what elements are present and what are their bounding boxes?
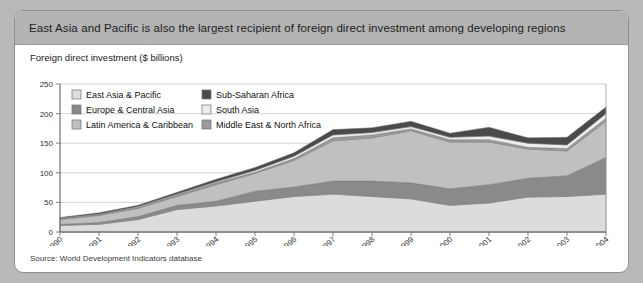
legend-swatch (202, 120, 211, 129)
x-tick-label: 2003 (552, 234, 572, 246)
legend-swatch (202, 90, 211, 99)
x-tick-label: 1996 (279, 234, 299, 246)
legend-swatch (72, 90, 81, 99)
legend-item: Middle East & North Africa (202, 120, 321, 130)
x-tick-label: 2004 (591, 234, 611, 246)
y-tick-label: 150 (40, 139, 54, 148)
legend-swatch (202, 105, 211, 114)
x-tick-label: 1992 (123, 234, 143, 246)
legend-label: Latin America & Caribbean (86, 120, 193, 130)
x-tick-label: 1994 (201, 234, 221, 246)
figure-title: East Asia and Pacific is also the larges… (29, 22, 566, 34)
y-tick-label: 250 (40, 80, 54, 89)
legend-label: Europe & Central Asia (86, 105, 175, 115)
legend-label: East Asia & Pacific (86, 90, 162, 100)
x-tick-label: 1998 (357, 234, 377, 246)
x-tick-label: 2002 (513, 234, 533, 246)
x-tick-label: 1993 (162, 234, 182, 246)
legend-item: Europe & Central Asia (72, 105, 175, 115)
legend-swatch (72, 120, 81, 129)
chart-axis-title: Foreign direct investment ($ billions) (30, 52, 183, 63)
x-tick-label: 2001 (474, 234, 494, 246)
x-tick-label: 1999 (396, 234, 416, 246)
legend-item: Latin America & Caribbean (72, 120, 193, 130)
y-tick-label: 50 (44, 198, 53, 207)
legend-item: Sub-Saharan Africa (202, 90, 294, 100)
legend-item: South Asia (202, 105, 259, 115)
legend-label: Middle East & North Africa (216, 120, 321, 130)
x-tick-label: 1995 (240, 234, 260, 246)
figure-header-bar: East Asia and Pacific is also the larges… (15, 11, 628, 45)
legend-label: Sub-Saharan Africa (216, 90, 294, 100)
y-tick-label: 200 (40, 110, 54, 119)
x-tick-label: 1991 (84, 234, 104, 246)
stacked-area-chart: 0501001502002501990199119921993199419951… (15, 66, 629, 246)
y-tick-label: 0 (49, 228, 54, 237)
source-note: Source: World Development Indicators dat… (30, 254, 202, 263)
legend-swatch (72, 105, 81, 114)
y-tick-label: 100 (40, 169, 54, 178)
chart-plot-area: 0501001502002501990199119921993199419951… (15, 66, 629, 246)
x-tick-label: 2000 (435, 234, 455, 246)
figure-card: East Asia and Pacific is also the larges… (14, 10, 629, 273)
x-tick-label: 1997 (318, 234, 338, 246)
legend-label: South Asia (216, 105, 259, 115)
legend-item: East Asia & Pacific (72, 90, 162, 100)
